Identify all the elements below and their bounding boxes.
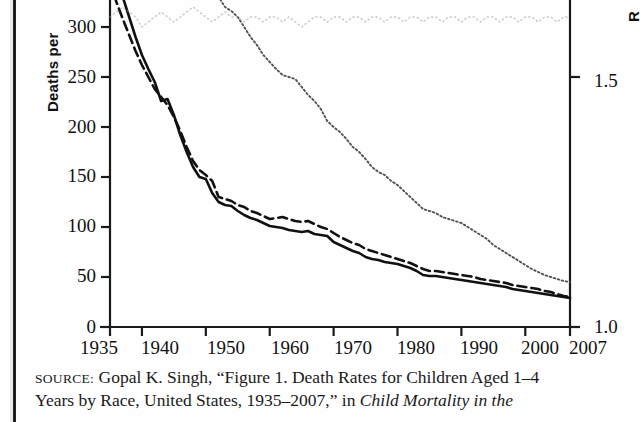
series-line — [110, 7, 570, 27]
y-tick-label-50: 50 — [52, 266, 96, 285]
chart-plot-canvas — [0, 0, 644, 360]
right-axis-title: R — [625, 11, 642, 22]
x-tick-label-1990: 1990 — [460, 338, 498, 357]
source-caption: SOURCE: Gopal K. Singh, “Figure 1. Death… — [35, 366, 635, 412]
scanned-page: Deaths per R 300 250 200 150 100 50 0 1.… — [0, 0, 644, 422]
y-tick-label-200: 200 — [52, 117, 96, 136]
source-line2-italic-title: Child Mortality in the — [360, 390, 513, 410]
series-line — [110, 0, 570, 282]
source-label: SOURCE: — [35, 371, 94, 386]
y-tick-label-0: 0 — [52, 317, 96, 336]
x-tick-label-1940: 1940 — [141, 338, 179, 357]
y-tick-label-300: 300 — [52, 17, 96, 36]
series-line — [110, 0, 570, 297]
y-tick-label-150: 150 — [52, 166, 96, 185]
x-tick-label-1970: 1970 — [334, 338, 372, 357]
x-tick-label-2000: 2000 — [521, 338, 559, 357]
right-tick-label-1-0: 1.0 — [594, 317, 618, 336]
figure-chart-area: Deaths per R 300 250 200 150 100 50 0 1.… — [0, 0, 644, 360]
y-tick-label-250: 250 — [52, 67, 96, 86]
series-line — [110, 0, 570, 298]
chart-series-lines — [110, 0, 570, 298]
x-tick-label-1980: 1980 — [397, 338, 435, 357]
x-tick-label-1935: 1935 — [80, 338, 118, 357]
chart-axes — [100, 0, 580, 336]
y-tick-label-100: 100 — [52, 216, 96, 235]
source-line2a: Years by Race, United States, 1935–2007,… — [35, 390, 360, 410]
right-tick-label-1-5: 1.5 — [594, 71, 618, 90]
x-tick-label-1950: 1950 — [207, 338, 245, 357]
source-line1: Gopal K. Singh, “Figure 1. Death Rates f… — [94, 367, 539, 387]
x-tick-label-1960: 1960 — [271, 338, 309, 357]
x-tick-label-2007: 2007 — [569, 338, 607, 357]
